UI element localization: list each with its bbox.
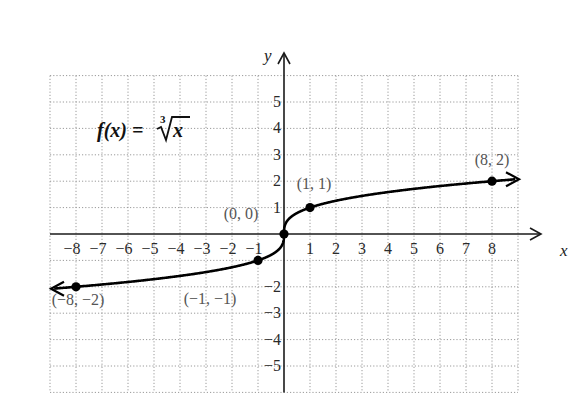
data-point xyxy=(305,203,314,212)
x-tick-label: 7 xyxy=(462,240,470,257)
x-tick-label: −1 xyxy=(245,240,262,257)
y-tick-label: 4 xyxy=(273,119,281,136)
x-tick-label: 2 xyxy=(332,240,340,257)
x-tick-label: 1 xyxy=(306,240,314,257)
y-tick-label: 5 xyxy=(273,93,281,110)
x-tick-label: 5 xyxy=(410,240,418,257)
x-tick-label: 3 xyxy=(358,240,366,257)
y-tick-label: 2 xyxy=(273,172,281,189)
point-label: (−1, −1) xyxy=(184,290,237,308)
y-tick-label: 1 xyxy=(273,199,281,216)
point-label: (−8, −2) xyxy=(52,291,105,309)
y-tick-label: −4 xyxy=(264,331,281,348)
point-label: (1, 1) xyxy=(297,175,332,193)
x-axis-label: x xyxy=(559,241,568,260)
y-tick-label: −3 xyxy=(264,304,281,321)
radical-index: 3 xyxy=(160,113,166,125)
x-tick-label: −2 xyxy=(219,240,236,257)
data-point xyxy=(487,177,496,186)
x-tick-label: −6 xyxy=(115,240,132,257)
radicand: x xyxy=(172,119,183,141)
x-tick-label: 4 xyxy=(384,240,392,257)
x-tick-label: −3 xyxy=(193,240,210,257)
point-label: (8, 2) xyxy=(475,151,510,169)
function-formula: f(x) = 3 x xyxy=(97,113,190,142)
y-tick-label: 3 xyxy=(273,146,281,163)
x-tick-label: 8 xyxy=(488,240,496,257)
x-tick-label: −5 xyxy=(141,240,158,257)
y-tick-label: −5 xyxy=(264,357,281,374)
formula-lhs: f(x) = xyxy=(97,119,143,142)
axes xyxy=(50,53,541,392)
data-point xyxy=(279,229,288,238)
x-tick-label: 6 xyxy=(436,240,444,257)
y-axis-label: y xyxy=(262,46,272,65)
point-label: (0, 0) xyxy=(224,205,259,223)
x-tick-label: −8 xyxy=(63,240,80,257)
data-point xyxy=(253,256,262,265)
y-tick-label: −2 xyxy=(264,278,281,295)
cube-root-graph: −8−7−6−5−4−3−2−11234567854321−2−3−4−5 (−… xyxy=(0,0,576,417)
x-tick-label: −4 xyxy=(167,240,184,257)
x-tick-label: −7 xyxy=(89,240,106,257)
